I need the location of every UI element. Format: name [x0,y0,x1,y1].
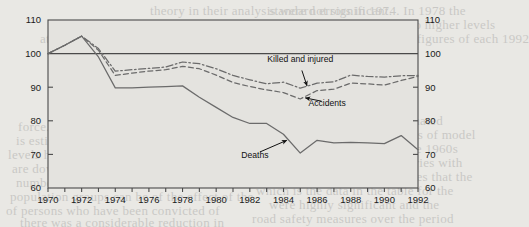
x-axis-tick-label: 1982 [239,194,260,205]
y-axis-tick-label: 100 [25,48,41,59]
x-axis-labels: 1970197219741976197819801982198419861988… [37,194,428,205]
y-axis-labels-right: 60708090100110 [425,14,441,193]
x-axis-tick-label: 1972 [71,194,92,205]
x-axis-tick-label: 1970 [37,194,58,205]
annotation-label-killed-and-injured: Killed and injured [267,54,333,64]
x-axis-tick-label: 1988 [340,194,361,205]
x-axis-ticks [48,188,418,192]
y-axis-tick-label: 90 [425,82,436,93]
y-axis-tick-label: 110 [26,14,41,25]
plot-area-background [48,20,418,188]
annotation-label-deaths: Deaths [241,150,268,160]
y-axis-tick-label: 70 [30,149,41,160]
x-axis-tick-label: 1974 [105,194,126,205]
y-axis-tick-label: 70 [425,149,436,160]
y-axis-tick-label: 110 [425,14,440,25]
x-axis-tick-label: 1980 [206,194,227,205]
x-axis-tick-label: 1984 [273,194,294,205]
y-axis-tick-label: 90 [30,82,41,93]
y-axis-tick-label: 60 [425,182,436,193]
y-axis-tick-label: 80 [30,115,41,126]
y-axis-tick-label: 100 [425,48,441,59]
x-axis-tick-label: 1990 [374,194,395,205]
x-axis-tick-label: 1992 [407,194,428,205]
y-axis-tick-label: 60 [30,182,41,193]
x-axis-tick-label: 1976 [138,194,159,205]
x-axis-tick-label: 1978 [172,194,193,205]
y-axis-tick-label: 80 [425,115,436,126]
y-axis-labels-left: 60708090100110 [25,14,41,193]
x-axis-tick-label: 1986 [307,194,328,205]
